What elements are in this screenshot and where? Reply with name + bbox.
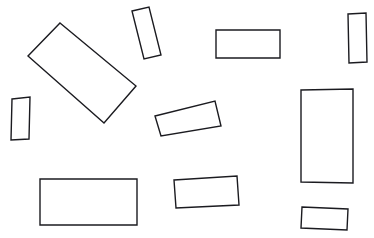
rectangle-bottom-center[interactable] bbox=[174, 176, 239, 208]
small-tall-rectangle-left-edge[interactable] bbox=[11, 97, 30, 140]
drawing-canvas bbox=[0, 0, 374, 238]
tall-rectangle-right-middle[interactable] bbox=[301, 89, 353, 183]
large-rectangle-bottom-left[interactable] bbox=[40, 179, 137, 225]
small-rectangle-bottom-right[interactable] bbox=[301, 207, 348, 230]
tall-rectangle-top-right-corner[interactable] bbox=[348, 13, 367, 63]
wide-rectangle-top-right-of-center[interactable] bbox=[216, 30, 280, 58]
rectangles-figure bbox=[0, 0, 374, 238]
